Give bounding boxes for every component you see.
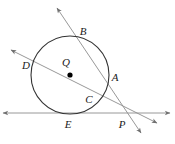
geometry-figure: B A C D E P Q	[0, 0, 175, 144]
point-label-c: C	[85, 94, 92, 105]
center-label-q: Q	[62, 57, 70, 68]
point-label-e: E	[65, 119, 72, 130]
center-point-dot	[67, 72, 72, 77]
geometry-canvas	[0, 0, 175, 144]
point-label-b: B	[80, 26, 87, 37]
point-label-d: D	[22, 60, 30, 71]
point-label-p: P	[119, 119, 126, 130]
point-label-a: A	[112, 72, 119, 83]
